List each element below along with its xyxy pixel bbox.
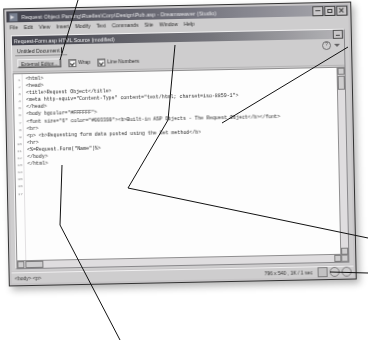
scanned-page: Request Object Parsing\Ruelles\Corp\Desi… — [0, 0, 368, 346]
wrap-checkbox[interactable]: Wrap — [68, 58, 90, 66]
mdi-client-area: Request-Form.asp HTML Source (modified) … — [7, 26, 354, 272]
wrap-checkbox-label: Wrap — [78, 59, 90, 66]
text-caret — [61, 47, 62, 53]
maximize-button[interactable] — [324, 5, 335, 15]
preview-icon[interactable] — [341, 267, 351, 277]
statusbar-spacer — [41, 273, 264, 277]
menu-window[interactable]: Window — [159, 21, 178, 28]
html-source-code-pane[interactable]: 1 2 3 4 5 6 7 8 9 10 11 12 13 14 — [13, 67, 349, 269]
wrap-checkbox-box[interactable] — [68, 59, 76, 67]
document-size-indicator: 796 x 540 , 1K / 1 sec — [264, 269, 313, 277]
line-number: 17 — [16, 190, 24, 197]
horizontal-scroll-thumb[interactable] — [25, 261, 43, 268]
help-icon[interactable]: ? — [322, 41, 331, 50]
menu-modify[interactable]: Modify — [75, 22, 90, 29]
line-numbers-checkbox[interactable]: Line Numbers — [97, 57, 139, 66]
document-minimize-button[interactable] — [333, 30, 343, 39]
launcher-icon[interactable] — [318, 267, 328, 277]
chevron-down-icon[interactable] — [334, 44, 340, 47]
dreamweaver-application-window: Request Object Parsing\Ruelles\Corp\Desi… — [3, 2, 357, 287]
tag-selector[interactable]: <body> <p> — [15, 274, 42, 282]
window-controls — [312, 5, 347, 16]
menu-view[interactable]: View — [39, 23, 50, 30]
scrollbar-corner — [341, 255, 348, 262]
dreamweaver-icon — [8, 12, 18, 22]
scroll-up-icon[interactable] — [338, 68, 345, 75]
vertical-scroll-thumb[interactable] — [338, 76, 345, 90]
menu-site[interactable]: Site — [144, 21, 153, 28]
menu-insert[interactable]: Insert — [56, 23, 69, 30]
minimize-button[interactable] — [312, 6, 323, 16]
document-title-input-value: Untitled Document — [17, 47, 60, 55]
menu-edit[interactable]: Edit — [24, 23, 33, 30]
menu-commands[interactable]: Commands — [112, 21, 139, 29]
document-title-input[interactable]: Untitled Document — [15, 46, 67, 56]
line-numbers-checkbox-label: Line Numbers — [107, 58, 139, 66]
scroll-left-icon[interactable] — [17, 261, 24, 268]
object-row-spacer — [70, 46, 319, 51]
menu-file[interactable]: File — [10, 24, 18, 31]
code-text-area[interactable]: <html> <head> <title>Request Object</tit… — [23, 68, 349, 268]
line-numbers-checkbox-box[interactable] — [97, 58, 105, 66]
html-source-document-window: Request-Form.asp HTML Source (modified) … — [11, 29, 350, 270]
external-editor-button[interactable]: External Editor... — [17, 58, 61, 68]
menu-text[interactable]: Text — [96, 22, 106, 29]
close-button[interactable] — [336, 5, 347, 15]
globe-icon[interactable] — [329, 267, 339, 277]
menu-help[interactable]: Help — [184, 20, 195, 27]
